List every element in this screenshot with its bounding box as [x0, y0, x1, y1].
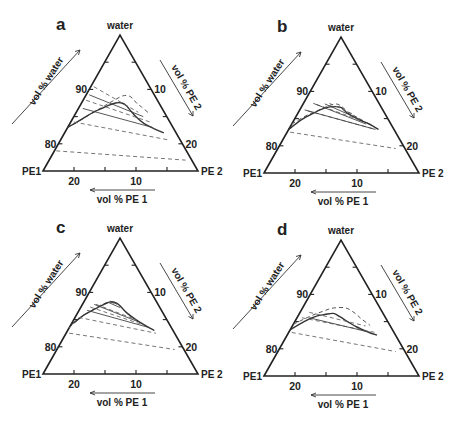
left-tick-label: 80: [45, 138, 57, 150]
vertex-label-pe2: PE 2: [422, 371, 444, 382]
bottom-tick-label: 10: [130, 378, 142, 390]
tie-line-dashed: [290, 132, 395, 148]
panel-c: cwaterPE1PE 2908010202010vol % watervol …: [0, 203, 233, 413]
panel-letter: c: [56, 218, 65, 237]
panel-a: awaterPE1PE 2908010202010vol % watervol …: [0, 0, 233, 210]
vertex-label-water: water: [106, 223, 133, 234]
right-tick-label: 20: [185, 138, 197, 150]
vertex-label-water: water: [327, 225, 354, 236]
vertex-label-pe2: PE 2: [201, 166, 223, 177]
bottom-axis-title: vol % PE 1: [318, 399, 369, 410]
tie-line-dashed: [90, 307, 144, 325]
vertex-label-pe1: PE1: [22, 166, 41, 177]
tie-line-dashed: [96, 304, 136, 319]
tie-line-solid: [305, 110, 376, 130]
panel-letter: a: [56, 15, 66, 34]
bottom-axis-title: vol % PE 1: [97, 397, 148, 408]
tie-line-solid: [94, 304, 138, 321]
panel-letter: b: [277, 17, 287, 36]
bottom-tick-label: 20: [68, 175, 80, 187]
left-axis-title: vol % water: [247, 260, 286, 312]
bottom-tick-label: 20: [68, 378, 80, 390]
left-axis-title: vol % water: [26, 55, 65, 107]
triangle-outline: [264, 37, 419, 173]
tie-line-dashed: [329, 103, 352, 113]
right-tick-label: 10: [154, 83, 166, 95]
ternary-phase-diagram-figure: awaterPE1PE 2908010202010vol % watervol …: [0, 0, 466, 421]
vertex-label-pe2: PE 2: [422, 168, 444, 179]
triangle-outline: [264, 240, 419, 376]
bottom-tick-label: 10: [351, 380, 363, 392]
tie-line-dashed: [56, 151, 185, 160]
panel-d: dwaterPE1PE 2908010202010vol % watervol …: [221, 205, 454, 415]
right-tick-label: 10: [375, 85, 387, 97]
panel-letter: d: [277, 220, 287, 239]
left-tick-label: 90: [297, 288, 309, 300]
tie-line-dashed: [292, 332, 396, 351]
right-tick-label: 20: [185, 341, 197, 353]
bottom-tick-label: 10: [130, 175, 142, 187]
ternary-plot: dwaterPE1PE 2908010202010vol % watervol …: [221, 205, 454, 415]
right-tick-label: 20: [406, 343, 418, 355]
left-tick-label: 80: [266, 140, 278, 152]
ternary-plot: bwaterPE1PE 2908010202010vol % watervol …: [221, 2, 454, 212]
binodal-curve-solid: [290, 313, 377, 335]
right-tick-label: 10: [375, 288, 387, 300]
binodal-curve-solid: [71, 302, 155, 331]
vertex-label-pe1: PE1: [22, 369, 41, 380]
right-tick-label: 10: [154, 286, 166, 298]
tie-line-dashed: [69, 333, 174, 349]
right-tick-label: 20: [406, 140, 418, 152]
bottom-tick-label: 20: [289, 380, 301, 392]
left-axis-title: vol % water: [247, 57, 286, 109]
tie-line-solid: [83, 108, 153, 127]
vertex-label-water: water: [327, 22, 354, 33]
panel-b: bwaterPE1PE 2908010202010vol % watervol …: [221, 2, 454, 212]
bottom-tick-label: 10: [351, 177, 363, 189]
bottom-tick-label: 20: [289, 177, 301, 189]
vertex-label-pe1: PE1: [243, 371, 262, 382]
tie-line-solid: [89, 95, 143, 117]
left-tick-label: 90: [76, 83, 88, 95]
ternary-plot: awaterPE1PE 2908010202010vol % watervol …: [0, 0, 233, 210]
tie-line-dashed: [74, 122, 169, 140]
vertex-label-water: water: [106, 20, 133, 31]
left-axis-title: vol % water: [26, 258, 65, 310]
left-tick-label: 90: [76, 286, 88, 298]
left-tick-label: 80: [45, 341, 57, 353]
vertex-label-pe2: PE 2: [201, 369, 223, 380]
left-tick-label: 80: [266, 343, 278, 355]
left-tick-label: 90: [297, 85, 309, 97]
vertex-label-pe1: PE1: [243, 168, 262, 179]
ternary-plot: cwaterPE1PE 2908010202010vol % watervol …: [0, 203, 233, 413]
